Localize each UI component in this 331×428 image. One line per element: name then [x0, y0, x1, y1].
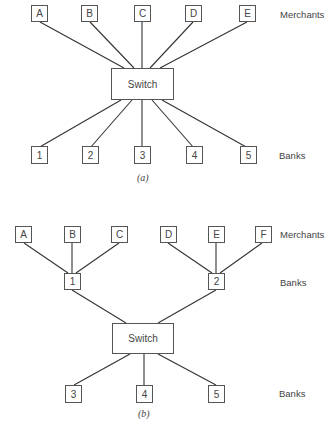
bank-3-node: 3	[65, 385, 82, 403]
merchant-e-node: E	[239, 5, 256, 22]
merchants-row-label: Merchants	[280, 9, 324, 20]
merchant-a-node: A	[15, 226, 32, 243]
bank-1-node: 1	[64, 273, 81, 290]
bank-2-node: 2	[82, 146, 99, 164]
bank-4-node: 4	[136, 385, 153, 403]
merchant-b-node: B	[81, 5, 98, 22]
merchant-d-node: D	[185, 5, 202, 22]
merchant-a-node: A	[31, 5, 48, 22]
caption-a: (a)	[137, 172, 149, 183]
merchant-f-node: F	[255, 226, 272, 243]
connection-lines	[0, 0, 331, 428]
banks-row-label: Banks	[279, 388, 305, 399]
bank-5-node: 5	[240, 146, 257, 164]
bank-2-node: 2	[208, 273, 225, 290]
merchant-b-node: B	[64, 226, 81, 243]
switch-node: Switch	[111, 68, 174, 100]
merchant-e-node: E	[208, 226, 225, 243]
intermediate-banks-row-label: Banks	[280, 277, 306, 288]
merchant-c-node: C	[111, 226, 128, 243]
banks-row-label: Banks	[279, 150, 305, 161]
bank-3-node: 3	[134, 146, 151, 164]
merchant-c-node: C	[134, 5, 151, 22]
merchants-row-label: Merchants	[280, 229, 324, 240]
bank-4-node: 4	[186, 146, 203, 164]
bank-1-node: 1	[31, 146, 48, 164]
caption-b: (b)	[138, 408, 150, 419]
switch-node: Switch	[112, 323, 174, 354]
merchant-d-node: D	[160, 226, 177, 243]
bank-5-node: 5	[208, 385, 225, 403]
